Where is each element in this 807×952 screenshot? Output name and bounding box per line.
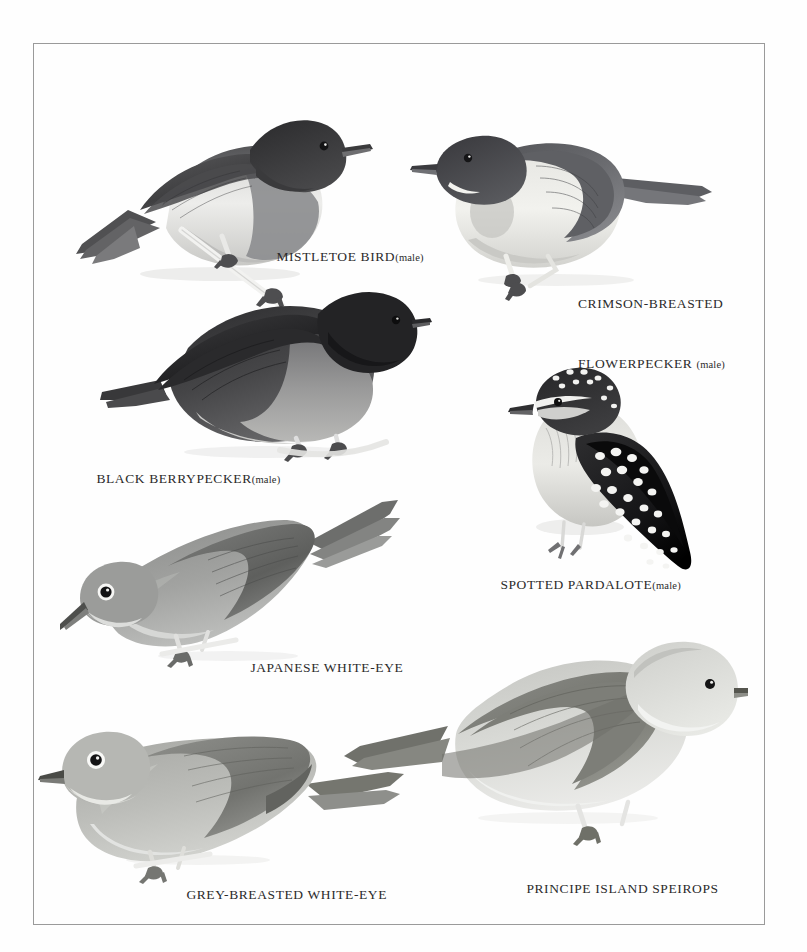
species-name-principe-island-speirops: PRINCIPE ISLAND SPEIROPS xyxy=(526,881,718,896)
caption-spotted-pardalote: SPOTTED PARDALOTE(male) xyxy=(482,554,681,613)
species-name-grey-breasted-white-eye: GREY-BREASTED WHITE-EYE xyxy=(186,887,387,902)
bird-illustration-black-berrypecker xyxy=(100,280,430,470)
caption-mistletoe-bird: MISTLETOE BIRD(male) xyxy=(258,226,424,285)
caption-principe-island-speirops: PRINCIPE ISLAND SPEIROPS xyxy=(508,858,719,917)
species-sex-crimson-breasted-flowerpecker: (male) xyxy=(696,359,725,370)
species-sex-spotted-pardalote: (male) xyxy=(652,580,681,591)
bird-illustration-spotted-pardalote xyxy=(500,352,700,582)
species-name-crimson-breasted-flowerpecker-line1: CRIMSON-BREASTED xyxy=(578,296,723,311)
species-name-spotted-pardalote: SPOTTED PARDALOTE xyxy=(500,577,652,592)
bird-plate: MISTLETOE BIRD(male) xyxy=(0,0,807,952)
species-name-mistletoe-bird: MISTLETOE BIRD xyxy=(276,249,395,264)
bird-illustration-principe-island-speirops xyxy=(338,638,748,848)
caption-grey-breasted-white-eye: GREY-BREASTED WHITE-EYE xyxy=(168,864,387,923)
